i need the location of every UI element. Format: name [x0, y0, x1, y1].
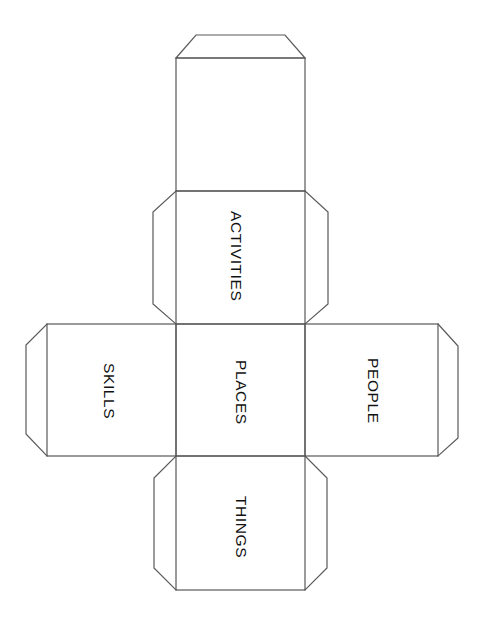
flap-left-of-activities — [153, 191, 176, 324]
flap-left-of-things — [154, 456, 176, 590]
flap-top-above-blank-face — [176, 35, 305, 58]
flap-right-of-things — [305, 456, 327, 590]
flap-right-of-people — [438, 324, 458, 456]
cube-net-canvas: ACTIVITIES SKILLS PLACES PEOPLE THINGS — [0, 0, 481, 631]
flap-right-of-activities — [305, 191, 328, 324]
face-label-places: PLACES — [233, 348, 249, 436]
flap-left-of-skills — [26, 324, 47, 456]
face-label-people: PEOPLE — [365, 350, 381, 432]
face-top-blank — [176, 58, 305, 191]
face-label-things: THINGS — [233, 484, 249, 570]
face-label-skills: SKILLS — [101, 352, 117, 430]
face-label-activities: ACTIVITIES — [228, 197, 244, 315]
